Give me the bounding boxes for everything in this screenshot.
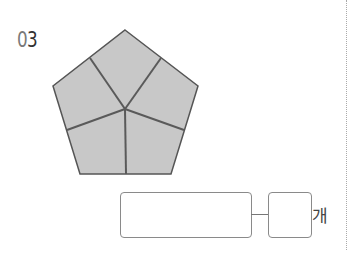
dotted-divider xyxy=(346,0,347,250)
unit-label: 개 xyxy=(312,202,328,227)
expression-answer-box[interactable] xyxy=(120,192,252,238)
connector-line xyxy=(251,214,268,215)
count-answer-box[interactable] xyxy=(268,192,312,238)
